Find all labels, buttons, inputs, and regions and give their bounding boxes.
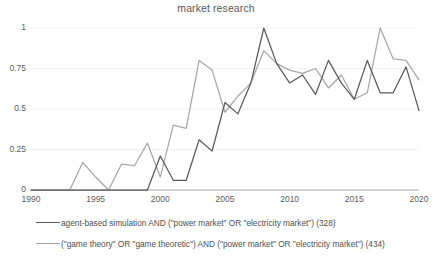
- y-axis-tick-label: 0.5: [0, 103, 26, 113]
- y-axis-tick-label: 0.25: [0, 144, 26, 154]
- chart-legend: agent-based simulation AND ("power marke…: [0, 212, 432, 254]
- x-axis-tick-label: 2020: [399, 194, 432, 204]
- y-axis-tick-label: 0: [0, 184, 26, 194]
- legend-color-swatch-series-1: [36, 222, 60, 223]
- x-axis-tick-label: 2005: [205, 194, 245, 204]
- legend-color-swatch-series-2: [36, 243, 60, 244]
- chart-container: market research 00.250.50.751 1990199520…: [0, 0, 432, 262]
- legend-label-series-1: agent-based simulation AND ("power marke…: [61, 218, 336, 228]
- legend-label-series-2: ("game theory" OR "game theoretic") AND …: [61, 239, 385, 249]
- y-axis-tick-label: 0.75: [0, 63, 26, 73]
- x-axis-tick-label: 1990: [11, 194, 51, 204]
- x-axis-tick-label: 2015: [334, 194, 374, 204]
- x-axis-tick-label: 2000: [140, 194, 180, 204]
- legend-item[interactable]: agent-based simulation AND ("power marke…: [0, 212, 432, 233]
- x-axis-tick-label: 1995: [76, 194, 116, 204]
- y-axis-tick-label: 1: [0, 22, 26, 32]
- legend-item[interactable]: ("game theory" OR "game theoretic") AND …: [0, 233, 432, 254]
- x-axis-tick-label: 2010: [270, 194, 310, 204]
